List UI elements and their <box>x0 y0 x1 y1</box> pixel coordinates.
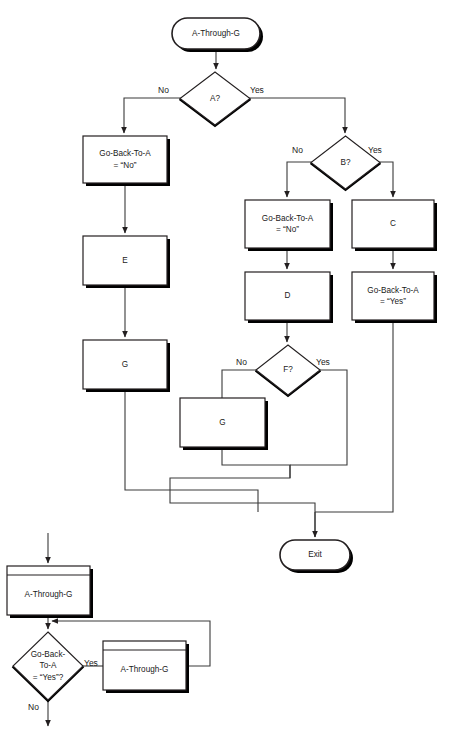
node-dec-a[interactable] <box>180 72 250 125</box>
node-dec-f[interactable] <box>256 345 320 395</box>
process-shape <box>83 340 167 389</box>
edge-gbayes-to-bus <box>315 320 393 512</box>
node-dec-goback[interactable] <box>13 632 83 700</box>
edge-label-f-yes: Yes <box>316 357 330 368</box>
flowchart-canvas <box>0 0 455 732</box>
edge-b-yes <box>380 162 393 197</box>
process-shape <box>7 566 90 615</box>
node-sub-atg-1[interactable] <box>7 566 93 618</box>
edge-label-goback-no: No <box>28 702 39 713</box>
edge-label-b-yes: Yes <box>368 145 382 156</box>
edge-a-yes <box>250 98 345 133</box>
node-box-e[interactable] <box>83 236 170 288</box>
process-shape <box>245 272 330 320</box>
node-sub-atg-2[interactable] <box>103 641 189 693</box>
process-shape <box>103 641 186 690</box>
edge-label-a-yes: Yes <box>250 85 264 96</box>
decision-shape <box>180 72 250 125</box>
shape-layer <box>7 18 437 700</box>
terminator-shape <box>280 540 350 570</box>
edge-label-goback-yes: Yes <box>84 658 98 669</box>
process-shape <box>245 200 330 248</box>
process-shape <box>83 236 167 285</box>
edge-a-no <box>124 98 180 133</box>
node-start[interactable] <box>172 18 263 52</box>
decision-shape <box>256 345 320 395</box>
node-gba-no-left[interactable] <box>83 136 170 186</box>
decision-shape <box>13 632 83 700</box>
node-gba-no-mid[interactable] <box>245 200 333 251</box>
node-gba-yes[interactable] <box>352 272 437 323</box>
process-shape <box>352 200 434 248</box>
process-shape <box>180 398 265 447</box>
process-shape <box>83 136 167 183</box>
edge-label-b-no: No <box>292 145 303 156</box>
edge-b-no <box>287 162 311 197</box>
node-exit[interactable] <box>280 540 353 573</box>
process-shape <box>352 272 434 320</box>
node-box-d[interactable] <box>245 272 333 323</box>
node-box-g-mid[interactable] <box>180 398 268 450</box>
edge-label-f-no: No <box>236 357 247 368</box>
edge-label-a-no: No <box>158 85 169 96</box>
decision-shape <box>311 136 380 189</box>
node-dec-b[interactable] <box>311 136 380 189</box>
node-box-c[interactable] <box>352 200 437 251</box>
edge-f-merge-to-exit <box>170 465 315 537</box>
node-box-g-left[interactable] <box>83 340 170 392</box>
terminator-shape <box>172 18 260 49</box>
